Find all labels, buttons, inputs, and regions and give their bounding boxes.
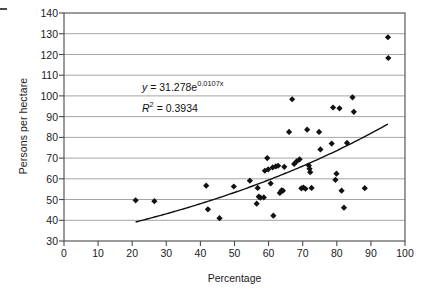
trendline-equation: y = 31.278e0.0107x — [142, 79, 224, 93]
x-tick-marks — [64, 241, 405, 246]
data-point — [264, 155, 270, 161]
data-point — [316, 129, 322, 135]
data-point — [203, 183, 209, 189]
axis-frame — [64, 13, 405, 241]
data-point — [254, 201, 260, 207]
scatter-chart: Persons per hectare Percentage 304050607… — [0, 0, 430, 297]
r-squared-label: R2 = 0.3934 — [142, 100, 198, 114]
r2-superscript: 2 — [150, 100, 154, 109]
data-point — [336, 105, 342, 111]
data-point — [362, 185, 368, 191]
data-point — [341, 205, 347, 211]
equation-exponent: 0.0107x — [197, 79, 223, 88]
y-tick-marks — [59, 13, 64, 241]
data-point — [333, 171, 339, 177]
data-point — [304, 127, 310, 133]
data-point — [151, 198, 157, 204]
data-point — [317, 146, 323, 152]
data-point — [205, 206, 211, 212]
data-point — [329, 140, 335, 146]
data-point — [255, 185, 261, 191]
data-point — [338, 188, 344, 194]
trend-line — [136, 124, 388, 222]
data-point — [231, 183, 237, 189]
data-points — [133, 34, 392, 221]
data-point — [281, 164, 287, 170]
equation-equals: = — [150, 81, 156, 93]
data-point — [332, 177, 338, 183]
plot-svg — [0, 0, 430, 297]
r2-symbol: R — [142, 102, 150, 114]
equation-coefficient: 31.278e — [159, 81, 197, 93]
equation-y: y — [142, 81, 147, 93]
data-point — [289, 96, 295, 102]
data-point — [385, 34, 391, 40]
data-point — [308, 185, 314, 191]
data-point — [133, 197, 139, 203]
r2-value: 0.3934 — [166, 102, 198, 114]
data-point — [268, 180, 274, 186]
data-point — [349, 94, 355, 100]
data-point — [385, 55, 391, 61]
data-point — [330, 104, 336, 110]
data-point — [270, 213, 276, 219]
r2-equals: = — [157, 102, 163, 114]
data-point — [286, 129, 292, 135]
data-point — [351, 109, 357, 115]
